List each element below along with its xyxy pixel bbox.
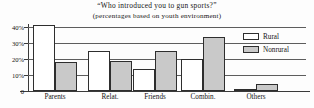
chart-subtitle: (percentages based on youth environment) xyxy=(0,11,314,21)
bar-others-nonrural xyxy=(256,84,278,91)
legend-label-rural: Rural xyxy=(263,33,279,41)
x-axis-line xyxy=(20,91,310,92)
y-axis-tick-label: 20% xyxy=(1,56,24,63)
y-axis-tick-label: 30% xyxy=(1,40,24,47)
bar-combin-nonrural xyxy=(203,37,225,91)
bar-parents-rural xyxy=(33,25,55,91)
bar-combin-rural xyxy=(181,59,203,91)
legend-item-nonrural: Nonrural xyxy=(243,44,311,55)
chart-title-block: “Who introduced you to gun sports?” (per… xyxy=(0,1,314,21)
bar-friends-rural xyxy=(133,69,155,91)
bar-relat-rural xyxy=(88,51,110,91)
bar-relat-nonrural xyxy=(110,61,132,91)
y-axis-tick-label: 0 xyxy=(1,88,24,95)
x-axis-label-combin: Combin. xyxy=(175,93,231,102)
chart-title: “Who introduced you to gun sports?” xyxy=(0,1,314,11)
legend-swatch-nonrural xyxy=(243,46,259,53)
bar-chart-figure: “Who introduced you to gun sports?” (per… xyxy=(0,0,314,108)
bar-friends-nonrural xyxy=(155,51,177,91)
bar-parents-nonrural xyxy=(55,62,77,91)
chart-legend: RuralNonrural xyxy=(243,31,311,57)
y-axis-tick-label: 10% xyxy=(1,72,24,79)
legend-swatch-rural xyxy=(243,33,259,40)
legend-item-rural: Rural xyxy=(243,31,311,42)
bar-others-rural xyxy=(234,89,256,91)
legend-label-nonrural: Nonrural xyxy=(263,46,289,54)
y-axis-tick-label: 40% xyxy=(1,24,24,31)
y-axis-tick-mark xyxy=(24,91,28,92)
x-axis-label-others: Others xyxy=(228,93,284,102)
x-axis-label-parents: Parents xyxy=(27,93,83,102)
